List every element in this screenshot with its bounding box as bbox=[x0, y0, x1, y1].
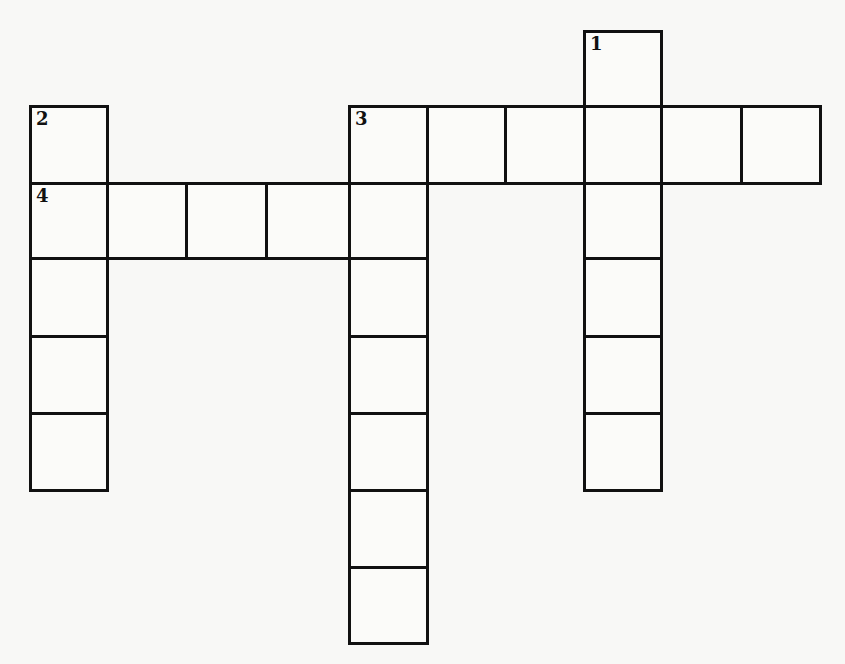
crossword-cell[interactable]: 4 bbox=[29, 182, 109, 260]
letter-input[interactable] bbox=[586, 415, 660, 489]
letter-input[interactable] bbox=[32, 415, 106, 489]
crossword-cell[interactable] bbox=[740, 105, 822, 185]
crossword-grid: 1234 bbox=[0, 0, 845, 664]
letter-input[interactable] bbox=[351, 415, 426, 489]
crossword-cell[interactable] bbox=[29, 257, 109, 338]
letter-input[interactable] bbox=[586, 185, 660, 257]
letter-input[interactable] bbox=[32, 185, 106, 257]
letter-input[interactable] bbox=[351, 108, 426, 182]
crossword-cell[interactable]: 3 bbox=[348, 105, 429, 185]
crossword-cell[interactable] bbox=[348, 489, 429, 569]
letter-input[interactable] bbox=[351, 338, 426, 412]
crossword-cell[interactable] bbox=[583, 257, 663, 338]
crossword-cell[interactable] bbox=[504, 105, 586, 185]
letter-input[interactable] bbox=[351, 569, 426, 642]
letter-input[interactable] bbox=[586, 260, 660, 335]
letter-input[interactable] bbox=[109, 185, 185, 257]
crossword-cell[interactable] bbox=[348, 182, 429, 260]
letter-input[interactable] bbox=[429, 108, 504, 182]
letter-input[interactable] bbox=[586, 33, 660, 105]
letter-input[interactable] bbox=[188, 185, 265, 257]
letter-input[interactable] bbox=[268, 185, 348, 257]
crossword-cell[interactable]: 1 bbox=[583, 30, 663, 108]
letter-input[interactable] bbox=[351, 185, 426, 257]
letter-input[interactable] bbox=[351, 260, 426, 335]
letter-input[interactable] bbox=[663, 108, 740, 182]
crossword-cell[interactable] bbox=[348, 335, 429, 415]
crossword-cell[interactable]: 2 bbox=[29, 105, 109, 185]
crossword-cell[interactable] bbox=[583, 182, 663, 260]
letter-input[interactable] bbox=[351, 492, 426, 566]
crossword-cell[interactable] bbox=[426, 105, 507, 185]
crossword-cell[interactable] bbox=[348, 566, 429, 645]
crossword-cell[interactable] bbox=[660, 105, 743, 185]
crossword-cell[interactable] bbox=[106, 182, 188, 260]
crossword-cell[interactable] bbox=[348, 412, 429, 492]
letter-input[interactable] bbox=[586, 338, 660, 412]
letter-input[interactable] bbox=[32, 260, 106, 335]
letter-input[interactable] bbox=[586, 108, 660, 182]
crossword-cell[interactable] bbox=[29, 335, 109, 415]
letter-input[interactable] bbox=[32, 108, 106, 182]
crossword-cell[interactable] bbox=[185, 182, 268, 260]
crossword-cell[interactable] bbox=[583, 105, 663, 185]
crossword-cell[interactable] bbox=[29, 412, 109, 492]
crossword-cell[interactable] bbox=[265, 182, 351, 260]
crossword-cell[interactable] bbox=[583, 335, 663, 415]
letter-input[interactable] bbox=[743, 108, 819, 182]
letter-input[interactable] bbox=[32, 338, 106, 412]
letter-input[interactable] bbox=[507, 108, 583, 182]
crossword-cell[interactable] bbox=[583, 412, 663, 492]
crossword-cell[interactable] bbox=[348, 257, 429, 338]
